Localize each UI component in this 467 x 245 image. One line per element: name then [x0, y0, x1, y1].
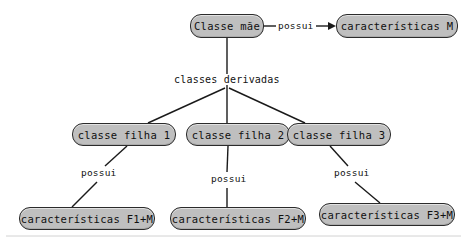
node-caracteristicas-f2-m: características F2+M: [170, 207, 306, 230]
node-caracteristicas-m: características M: [336, 14, 458, 38]
node-classe-filha-2: classe filha 2: [186, 123, 290, 146]
edge-branch-to-child-1: [148, 88, 225, 123]
edge-label-possui-2: possui: [209, 173, 249, 184]
class-inheritance-diagram: Classe mãe características M classe filh…: [0, 0, 467, 245]
edge-possui-3-to-feature-f3: [355, 182, 380, 203]
edge-branch-to-child-3: [229, 88, 305, 123]
node-classe-filha-1: classe filha 1: [72, 123, 176, 146]
edge-label-possui-3: possui: [332, 167, 372, 178]
node-classe-filha-3: classe filha 3: [287, 123, 391, 146]
node-caracteristicas-f1-m: características F1+M: [19, 207, 155, 230]
arrowhead-icon-feature-m: [328, 22, 336, 30]
edge-child-3-to-possui-3: [330, 146, 348, 166]
edge-child-1-to-possui-1: [105, 146, 127, 166]
edge-child-2-to-possui-2: [227, 146, 228, 172]
node-caracteristicas-f3-m: características F3+M: [319, 203, 455, 226]
edge-possui-1-to-feature-f1: [72, 182, 97, 207]
edge-label-possui-1: possui: [79, 167, 119, 178]
edge-label-classes-derivadas: classes derivadas: [172, 74, 282, 85]
node-classe-mae: Classe mãe: [190, 14, 264, 38]
edge-label-possui-root: possui: [276, 20, 316, 31]
